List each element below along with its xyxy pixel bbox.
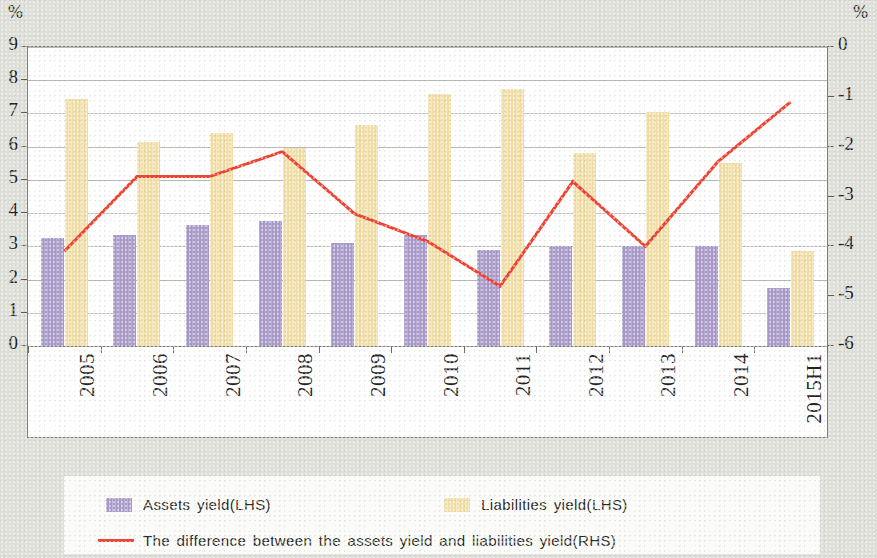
x-axis-tick: [28, 346, 29, 353]
legend-label-difference: The difference between the assets yield …: [143, 532, 616, 549]
x-axis-tick: [319, 346, 320, 353]
right-axis-tick-label: -3: [838, 183, 868, 205]
left-axis-tick-label: 4: [0, 199, 18, 221]
right-axis-tick: [828, 196, 834, 197]
left-axis-unit: %: [8, 2, 23, 23]
x-axis-tick: [101, 346, 102, 353]
x-axis-label: 2005: [75, 353, 100, 397]
left-axis-tick-label: 7: [0, 99, 18, 121]
x-axis-tick: [391, 346, 392, 353]
x-axis-label: 2013: [656, 353, 681, 397]
right-axis-tick: [828, 146, 834, 147]
legend-item-assets: Assets yield(LHS): [106, 496, 271, 513]
right-axis-tick-label: -5: [838, 282, 868, 304]
difference-line-swatch-icon: [98, 539, 134, 542]
x-axis-label: 2007: [221, 353, 246, 397]
x-axis-tick: [464, 346, 465, 353]
right-axis-tick-label: -4: [838, 232, 868, 254]
x-axis-tick: [173, 346, 174, 353]
x-axis-tick: [682, 346, 683, 353]
gridline: [28, 346, 827, 347]
left-axis-tick-label: 3: [0, 232, 18, 254]
chart-legend: Assets yield(LHS) Liabilities yield(LHS)…: [64, 476, 820, 554]
legend-label-liabilities: Liabilities yield(LHS): [481, 496, 628, 513]
liabilities-swatch-icon: [444, 498, 470, 512]
left-axis-tick-label: 0: [0, 332, 18, 354]
x-axis-tick: [246, 346, 247, 353]
right-axis-tick-label: -2: [838, 133, 868, 155]
x-axis-label: 2010: [439, 353, 464, 397]
left-axis-tick-label: 6: [0, 133, 18, 155]
x-axis-tick: [536, 346, 537, 353]
left-axis-tick-label: 1: [0, 299, 18, 321]
left-axis-tick-label: 9: [0, 33, 18, 55]
right-axis-tick: [828, 295, 834, 296]
difference-line-series: [28, 47, 827, 346]
x-axis-label: 2008: [293, 353, 318, 397]
x-axis-label: 2012: [584, 353, 609, 397]
right-axis-tick: [828, 96, 834, 97]
legend-label-assets: Assets yield(LHS): [143, 496, 271, 513]
x-axis-label: 2014: [729, 353, 754, 397]
right-axis-tick: [828, 245, 834, 246]
x-axis-label: 2015H1: [802, 353, 827, 424]
right-axis-tick: [828, 46, 834, 47]
right-axis-tick-label: -1: [838, 83, 868, 105]
right-axis-tick: [828, 345, 834, 346]
left-axis-tick-label: 5: [0, 166, 18, 188]
assets-swatch-icon: [106, 498, 132, 512]
chart-plot-frame: 2005200620072008200920102011201220132014…: [27, 46, 828, 438]
right-axis-tick-label: -6: [838, 332, 868, 354]
left-axis-tick-label: 8: [0, 66, 18, 88]
x-axis-tick: [827, 346, 828, 353]
x-axis-tick: [609, 346, 610, 353]
legend-item-difference: The difference between the assets yield …: [98, 532, 616, 549]
x-axis-label: 2006: [148, 353, 173, 397]
plot-area: [28, 47, 827, 346]
x-axis-label: 2009: [366, 353, 391, 397]
left-axis-tick-label: 2: [0, 266, 18, 288]
right-axis-unit: %: [853, 2, 868, 23]
x-axis-tick: [754, 346, 755, 353]
right-axis-tick-label: 0: [838, 33, 868, 55]
x-axis-label: 2011: [511, 353, 536, 396]
legend-item-liabilities: Liabilities yield(LHS): [444, 496, 628, 513]
